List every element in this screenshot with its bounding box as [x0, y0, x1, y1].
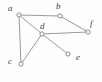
graph-edge-b-f [60, 16, 88, 32]
vertex-label-c: c [8, 57, 12, 66]
vertex-label-b: b [56, 2, 61, 11]
vertex-label-f: f [90, 19, 93, 28]
graph-edge-c-d [21, 34, 42, 64]
graph-figure: abcdef [0, 0, 102, 82]
graph-vertex-b [58, 14, 62, 18]
graph-vertex-e [66, 52, 70, 56]
graph-edge-a-c [19, 15, 21, 64]
graph-edge-a-d [19, 15, 42, 34]
vertex-label-e: e [76, 53, 80, 62]
graph-canvas [0, 0, 102, 82]
graph-vertex-a [17, 13, 21, 17]
vertex-label-a: a [8, 4, 13, 13]
graph-edge-a-b [19, 15, 60, 16]
graph-vertex-f [86, 30, 90, 34]
graph-edge-d-f [42, 32, 88, 34]
graph-vertex-d [40, 32, 44, 36]
graph-vertex-c [19, 62, 23, 66]
vertex-label-d: d [40, 22, 45, 31]
graph-edge-d-e [42, 34, 68, 54]
